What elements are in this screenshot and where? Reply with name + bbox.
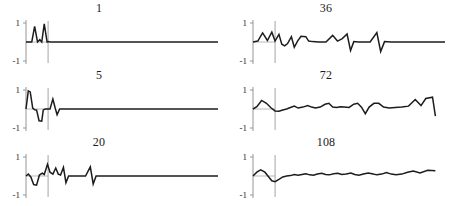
signal-trace — [253, 170, 435, 182]
y-tick-label-top: 1 — [243, 18, 248, 28]
plot-svg: 1-1 — [0, 15, 226, 70]
signal-trace — [26, 91, 218, 121]
plot-area: 1-1 — [227, 149, 453, 204]
y-tick-label-top: 1 — [16, 152, 21, 162]
y-tick-label-bottom: -1 — [13, 190, 21, 200]
y-tick-label-bottom: -1 — [240, 123, 248, 133]
signal-panel-20: 201-1 — [0, 136, 226, 204]
signal-panel-1: 11-1 — [0, 2, 226, 70]
panel-title: 5 — [0, 69, 226, 82]
panel-title-text: 20 — [93, 136, 105, 149]
y-tick-label-top: 1 — [16, 85, 21, 95]
plot-svg: 1-1 — [227, 149, 453, 204]
plot-area: 1-1 — [0, 149, 226, 204]
signal-trace — [253, 32, 445, 51]
plot-svg: 1-1 — [227, 82, 453, 137]
panel-title: 72 — [227, 69, 453, 82]
plot-area: 1-1 — [0, 82, 226, 137]
signal-trace — [26, 164, 218, 185]
signal-panel-108: 1081-1 — [227, 136, 453, 204]
panel-title: 20 — [0, 136, 226, 149]
y-tick-label-bottom: -1 — [13, 123, 21, 133]
plot-svg: 1-1 — [0, 149, 226, 204]
plot-area: 1-1 — [227, 15, 453, 70]
signal-trace — [26, 24, 218, 42]
panel-title-text: 5 — [96, 69, 102, 82]
y-tick-label-top: 1 — [16, 18, 21, 28]
y-tick-label-top: 1 — [243, 152, 248, 162]
panel-title-text: 36 — [320, 2, 332, 15]
plot-area: 1-1 — [227, 82, 453, 137]
plot-svg: 1-1 — [0, 82, 226, 137]
wavelet-panel-figure: 11-151-1201-1361-1721-11081-1 — [0, 0, 453, 206]
panel-title: 1 — [0, 2, 226, 15]
y-tick-label-bottom: -1 — [13, 56, 21, 66]
signal-trace — [253, 97, 435, 116]
plot-svg: 1-1 — [227, 15, 453, 70]
signal-panel-5: 51-1 — [0, 69, 226, 137]
y-tick-label-top: 1 — [243, 85, 248, 95]
plot-area: 1-1 — [0, 15, 226, 70]
panel-title: 108 — [227, 136, 453, 149]
y-tick-label-bottom: -1 — [240, 56, 248, 66]
panel-title-text: 72 — [320, 69, 332, 82]
signal-panel-72: 721-1 — [227, 69, 453, 137]
panel-title: 36 — [227, 2, 453, 15]
signal-panel-36: 361-1 — [227, 2, 453, 70]
panel-title-text: 1 — [96, 2, 102, 15]
y-tick-label-bottom: -1 — [240, 190, 248, 200]
panel-title-text: 108 — [317, 136, 336, 149]
